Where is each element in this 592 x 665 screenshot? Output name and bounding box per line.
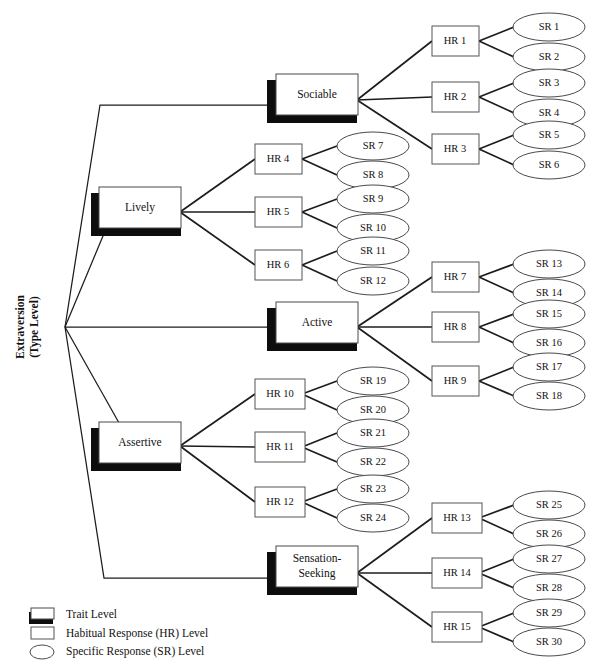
hr-node-hr4[interactable]: HR 4 (255, 144, 302, 174)
type-level-line2: (Type Level) (28, 296, 41, 358)
hr-label: HR 13 (443, 512, 471, 523)
hr-label: HR 9 (444, 375, 466, 386)
edge-hr6-sr11 (302, 251, 337, 265)
sr-node-sr23[interactable]: SR 23 (337, 475, 409, 503)
sr-node-sr22[interactable]: SR 22 (337, 448, 409, 476)
edge-hr3-sr6 (479, 149, 514, 165)
hr-node-hr14[interactable]: HR 14 (432, 558, 482, 588)
shadow-rect-icon (31, 608, 54, 619)
hr-node-hr7[interactable]: HR 7 (432, 262, 479, 292)
sr-node-sr3[interactable]: SR 3 (513, 69, 585, 97)
edge-assertive-hr10 (180, 394, 255, 446)
hr-node-hr12[interactable]: HR 12 (255, 487, 305, 517)
hr-label: HR 10 (266, 388, 294, 399)
sr-node-sr17[interactable]: SR 17 (513, 353, 585, 381)
edge-hr7-sr14 (479, 277, 514, 293)
sr-label: SR 6 (539, 159, 560, 170)
edge-lively-hr6 (180, 212, 255, 265)
trait-node-sociable[interactable]: Sociable (267, 74, 358, 123)
edge-hr15-sr30 (479, 627, 514, 642)
edge-hr6-sr12 (302, 265, 337, 281)
hr-label: HR 14 (443, 567, 471, 578)
trait-node-lively[interactable]: Lively (91, 187, 181, 236)
sr-label: SR 27 (536, 553, 562, 564)
edge-hr12-sr24 (302, 502, 337, 518)
edge-hr9-sr17 (479, 367, 514, 381)
sr-node-sr19[interactable]: SR 19 (337, 367, 409, 395)
hr-node-hr10[interactable]: HR 10 (255, 379, 305, 409)
type-level-line1: Extraversion (14, 294, 26, 358)
sr-label: SR 24 (360, 512, 387, 523)
trait-node-assertive[interactable]: Assertive (91, 422, 181, 471)
sr-node-sr28[interactable]: SR 28 (513, 574, 585, 602)
type-level-label: Extraversion (Type Level) (14, 294, 41, 358)
edge-hr10-sr20 (302, 394, 337, 410)
edge-assertive-hr12 (180, 446, 255, 502)
sr-label: SR 25 (536, 499, 562, 510)
trait-label: Lively (125, 201, 155, 214)
sr-label: SR 8 (363, 169, 384, 180)
sr-label: SR 20 (360, 404, 386, 415)
edge-hr13-sr25 (479, 505, 514, 518)
ellipse-icon (30, 645, 54, 659)
hr-node-hr1[interactable]: HR 1 (432, 26, 479, 56)
sr-node-sr29[interactable]: SR 29 (513, 599, 585, 627)
edge-hr5-sr10 (302, 212, 337, 228)
legend: Trait Level Habitual Response (HR) Level… (29, 608, 208, 659)
edge-lively-hr4 (180, 159, 255, 212)
edge-hr9-sr18 (479, 381, 514, 396)
sr-node-sr7[interactable]: SR 7 (337, 132, 409, 160)
sr-node-sr15[interactable]: SR 15 (513, 300, 585, 328)
sr-node-sr1[interactable]: SR 1 (513, 13, 585, 41)
sr-node-sr12[interactable]: SR 12 (337, 267, 409, 295)
edge-assertive-hr11 (180, 446, 255, 447)
hr-node-hr13[interactable]: HR 13 (432, 503, 482, 533)
sr-node-sr30[interactable]: SR 30 (513, 628, 585, 656)
sr-node-sr5[interactable]: SR 5 (513, 121, 585, 149)
edge-hr15-sr29 (479, 613, 514, 627)
hr-node-hr11[interactable]: HR 11 (255, 432, 305, 462)
diagram-page: Extraversion (Type Level) Sociable Livel… (0, 0, 592, 665)
sr-label: SR 29 (536, 607, 562, 618)
hr-node-hr6[interactable]: HR 6 (255, 250, 302, 280)
legend-label: Trait Level (66, 608, 117, 620)
hr-label: HR 3 (444, 143, 466, 154)
sr-label: SR 18 (536, 390, 562, 401)
hr-label: HR 1 (444, 35, 466, 46)
sr-node-sr2[interactable]: SR 2 (513, 43, 585, 71)
edge-hr3-sr5 (479, 135, 514, 149)
legend-label: Habitual Response (HR) Level (66, 627, 208, 640)
rect-icon (31, 627, 54, 639)
sr-node-sr26[interactable]: SR 26 (513, 520, 585, 548)
hr-label: HR 2 (444, 91, 466, 102)
sr-label: SR 7 (363, 140, 384, 151)
hr-node-hr2[interactable]: HR 2 (432, 82, 479, 112)
trait-label-line1: Sensation- (293, 552, 342, 564)
sr-node-sr6[interactable]: SR 6 (513, 151, 585, 179)
trait-node-active[interactable]: Active (267, 302, 358, 351)
edge-hr8-sr15 (479, 314, 514, 327)
trait-node-sensation-seeking[interactable]: Sensation- Seeking (267, 546, 358, 595)
trait-label: Assertive (118, 436, 161, 448)
hr-node-hr5[interactable]: HR 5 (255, 197, 302, 227)
sr-node-sr27[interactable]: SR 27 (513, 545, 585, 573)
edge-hr12-sr23 (302, 489, 337, 502)
edge-sociable-hr1 (357, 41, 432, 100)
sr-node-sr13[interactable]: SR 13 (513, 250, 585, 278)
hr-node-hr3[interactable]: HR 3 (432, 134, 479, 164)
sr-node-sr9[interactable]: SR 9 (337, 185, 409, 213)
sr-label: SR 5 (539, 129, 560, 140)
sr-node-sr18[interactable]: SR 18 (513, 382, 585, 410)
edge-hr14-sr27 (479, 559, 514, 573)
hr-label: HR 7 (444, 271, 466, 282)
hr-label: HR 5 (267, 206, 289, 217)
hr-node-hr9[interactable]: HR 9 (432, 366, 479, 396)
sr-label: SR 2 (539, 51, 560, 62)
sr-node-sr25[interactable]: SR 25 (513, 491, 585, 519)
hr-node-hr8[interactable]: HR 8 (432, 312, 479, 342)
hr-node-hr15[interactable]: HR 15 (432, 612, 482, 642)
sr-node-sr21[interactable]: SR 21 (337, 419, 409, 447)
sr-node-sr11[interactable]: SR 11 (337, 237, 409, 265)
sr-node-sr24[interactable]: SR 24 (337, 504, 409, 532)
sr-label: SR 30 (536, 636, 562, 647)
